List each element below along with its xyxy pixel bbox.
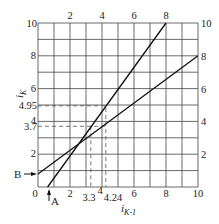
marker-b-label: B xyxy=(14,168,21,180)
svg-text:iK: iK xyxy=(13,89,28,98)
x-tick-top-6: 6 xyxy=(131,10,136,21)
chart: A B 10 8 6 4 2 4.95 3.7 iK 10 8 6 4 2 2 … xyxy=(0,0,219,224)
marker-a-label: A xyxy=(51,195,59,207)
x-tick-bottom-0: 0 xyxy=(32,188,37,199)
y-tick-4-95: 4.95 xyxy=(19,100,37,111)
y-axis-label: iK xyxy=(13,89,28,98)
y-tick-left-8: 8 xyxy=(31,50,36,61)
x-axis-label: iK-1 xyxy=(121,202,136,217)
grid xyxy=(38,23,198,187)
y-tick-left-10: 10 xyxy=(27,18,38,29)
marker-b-arrow xyxy=(24,172,37,176)
x-tick-top-2: 2 xyxy=(67,10,72,21)
y-tick-right-8: 8 xyxy=(201,51,206,62)
x-tick-bottom-8: 8 xyxy=(163,188,168,199)
guide-4-95 xyxy=(38,106,106,187)
y-tick-left-2: 2 xyxy=(31,148,36,159)
x-tick-bottom-10: 10 xyxy=(193,188,204,199)
x-tick-bottom-6: 6 xyxy=(131,188,136,199)
x-tick-top-8: 8 xyxy=(163,10,168,21)
y-tick-right-2: 2 xyxy=(201,149,206,160)
x-tick-bottom-2: 2 xyxy=(67,188,72,199)
y-tick-left-6: 6 xyxy=(31,83,36,94)
x-tick-3-3: 3.3 xyxy=(82,192,95,203)
x-tick-top-4: 4 xyxy=(99,10,105,21)
dashed-guides xyxy=(38,106,106,187)
y-tick-right-6: 6 xyxy=(201,84,206,95)
x-tick-bottom-4: 4 xyxy=(97,185,103,196)
y-tick-3-7: 3.7 xyxy=(24,121,37,132)
y-tick-right-10: 10 xyxy=(201,18,212,29)
y-tick-right-4: 4 xyxy=(201,116,207,127)
